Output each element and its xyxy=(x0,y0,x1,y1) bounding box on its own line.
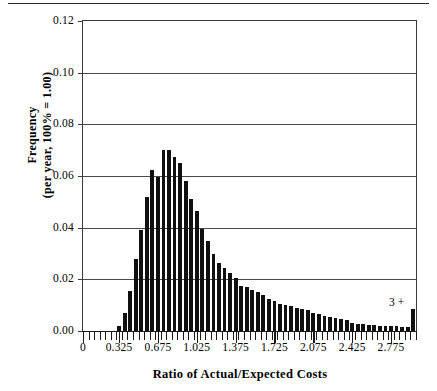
x-axis-tick-mark xyxy=(122,332,123,340)
x-axis-tick-mark xyxy=(322,332,323,340)
x-axis-tick-mark xyxy=(266,332,267,340)
histogram-bar xyxy=(150,170,154,331)
x-axis-tick-labels: 00.3250.6751.0251.3751.7252.0752.4252.77… xyxy=(0,341,437,357)
histogram-bar xyxy=(261,295,265,331)
x-axis-tick-mark xyxy=(116,332,117,340)
x-axis-tick-mark xyxy=(100,332,101,340)
x-axis-tick-mark xyxy=(277,332,278,340)
x-axis-tick-label: 1.725 xyxy=(261,341,288,354)
histogram-bar xyxy=(361,324,365,331)
histogram-bar xyxy=(345,320,349,331)
x-axis-tick-mark xyxy=(194,332,195,340)
x-axis-tick-mark xyxy=(105,332,106,340)
x-axis-tick-mark xyxy=(216,332,217,340)
x-axis-title: Ratio of Actual/Expected Costs xyxy=(60,367,420,382)
x-axis-tick-label: 0.325 xyxy=(106,341,133,354)
y-axis-title: Frequency (per year, 100% = 1.00) xyxy=(25,15,55,255)
x-axis-ticks xyxy=(83,332,416,341)
y-axis-tick-label: 0.02 xyxy=(26,273,74,285)
x-axis-tick-mark xyxy=(255,332,256,340)
x-axis-tick-mark xyxy=(394,332,395,340)
histogram-bar xyxy=(289,306,293,331)
x-axis-tick-mark xyxy=(177,332,178,340)
x-axis-tick-mark xyxy=(316,332,317,340)
x-axis-tick-label: 2.075 xyxy=(300,341,327,354)
histogram-bar xyxy=(273,301,277,331)
x-axis-tick-mark xyxy=(399,332,400,340)
x-axis-tick-mark xyxy=(311,332,312,340)
x-axis-tick-mark xyxy=(155,332,156,340)
x-axis-tick-mark xyxy=(333,332,334,340)
histogram-bar xyxy=(200,229,204,331)
x-axis-tick-mark xyxy=(410,332,411,340)
x-axis-tick-mark xyxy=(227,332,228,340)
x-axis-tick-mark xyxy=(327,332,328,340)
x-axis-tick-mark xyxy=(139,332,140,340)
x-axis-tick-mark xyxy=(383,332,384,340)
x-axis-tick-mark xyxy=(200,332,201,340)
x-axis-tick-mark xyxy=(388,332,389,340)
histogram-bar xyxy=(323,316,327,332)
x-axis-tick-mark xyxy=(294,332,295,340)
histogram-bar xyxy=(328,317,332,331)
x-axis-tick-label: 1.375 xyxy=(222,341,249,354)
overflow-bin-annotation: 3 + xyxy=(389,296,404,308)
x-axis-tick-mark xyxy=(366,332,367,340)
histogram-bar xyxy=(306,310,310,331)
x-axis-tick-mark xyxy=(166,332,167,340)
histogram-bar xyxy=(123,313,127,331)
x-axis-tick-mark xyxy=(183,332,184,340)
x-axis-tick-mark xyxy=(222,332,223,340)
histogram-bar xyxy=(411,309,415,331)
histogram-bar xyxy=(267,299,271,331)
x-axis-tick-mark xyxy=(133,332,134,340)
x-axis-tick-mark xyxy=(272,332,273,340)
x-axis-tick-mark xyxy=(283,332,284,340)
x-axis-tick-mark xyxy=(405,332,406,340)
histogram-bar xyxy=(128,291,132,331)
histogram-bar xyxy=(139,230,143,331)
histogram-bar xyxy=(178,163,182,331)
histogram-bar xyxy=(350,323,354,331)
x-axis-tick-label: 2.425 xyxy=(339,341,366,354)
histogram-bar xyxy=(167,150,171,331)
histogram-bar xyxy=(245,287,249,331)
x-axis-tick-mark xyxy=(355,332,356,340)
histogram-bar xyxy=(228,273,232,331)
histogram-bar xyxy=(334,318,338,331)
x-axis-tick-mark xyxy=(89,332,90,340)
histogram-bar xyxy=(223,268,227,331)
x-axis-tick-mark xyxy=(205,332,206,340)
histogram-bar xyxy=(189,199,193,331)
histogram-bar xyxy=(234,278,238,331)
histogram-bar xyxy=(300,309,304,331)
x-axis-tick-mark xyxy=(338,332,339,340)
histogram-bar xyxy=(278,304,282,331)
histogram-chart: 0.120.100.080.060.040.020.00 Frequency (… xyxy=(0,0,437,391)
x-axis-tick-label: 2.775 xyxy=(378,341,405,354)
x-axis-tick-mark xyxy=(344,332,345,340)
y-axis-title-line-2: (per year, 100% = 1.00) xyxy=(40,15,55,255)
histogram-bar xyxy=(156,177,160,331)
x-axis-tick-mark xyxy=(349,332,350,340)
x-axis-tick-mark xyxy=(299,332,300,340)
x-axis-tick-mark xyxy=(127,332,128,340)
x-axis-tick-label: 1.025 xyxy=(183,341,210,354)
x-axis-tick-mark xyxy=(261,332,262,340)
histogram-bar xyxy=(239,286,243,331)
x-axis-tick-mark xyxy=(372,332,373,340)
y-axis-title-line-1: Frequency xyxy=(25,15,40,255)
histogram-bar xyxy=(356,324,360,331)
x-axis-tick-mark xyxy=(150,332,151,340)
x-axis-tick-mark xyxy=(94,332,95,340)
histogram-bar xyxy=(206,241,210,331)
histogram-bars xyxy=(83,21,416,331)
x-axis-tick-mark xyxy=(161,332,162,340)
histogram-bar xyxy=(184,181,188,331)
x-axis-tick-mark xyxy=(377,332,378,340)
histogram-bar xyxy=(284,305,288,331)
x-axis-tick-mark xyxy=(172,332,173,340)
x-axis-tick-mark xyxy=(111,332,112,340)
x-axis-tick-mark xyxy=(250,332,251,340)
histogram-bar xyxy=(250,290,254,331)
